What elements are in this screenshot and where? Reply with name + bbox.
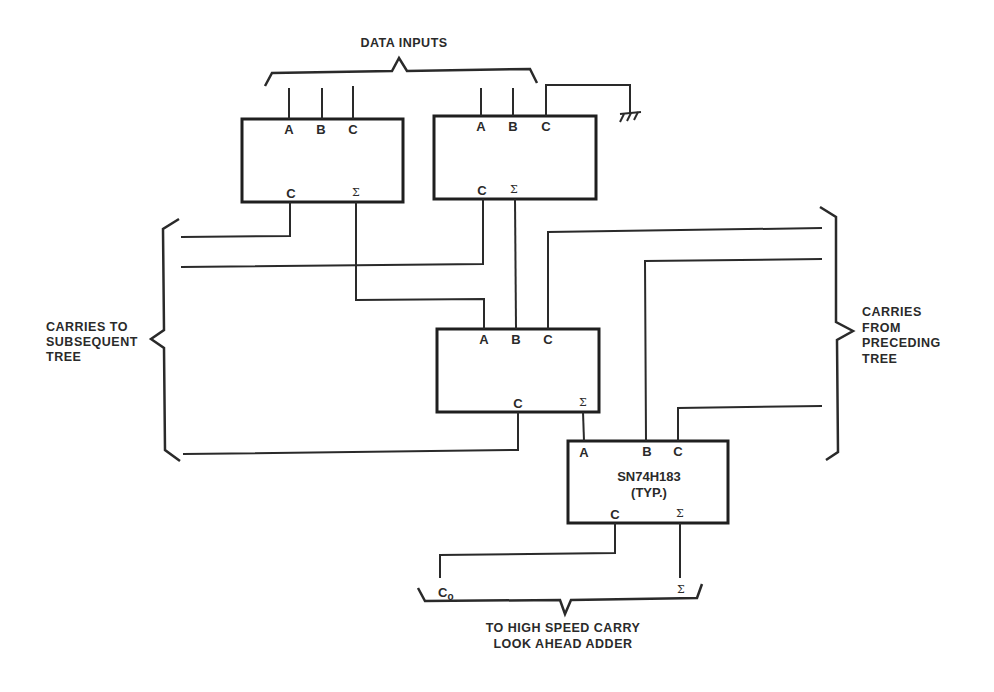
wire-carry-in-to-adder4-b xyxy=(645,259,822,441)
wire-adder2-carry-out xyxy=(181,199,483,267)
adder-3-pin-b: B xyxy=(511,332,520,347)
carries-to-brace xyxy=(151,219,180,461)
wire-adder3-sum-to-adder4-a xyxy=(583,412,584,441)
data-inputs-label: DATA INPUTS xyxy=(360,36,447,50)
adder-3-pin-a: A xyxy=(479,332,489,347)
adder-2-pin-a: A xyxy=(476,119,486,134)
carries-to-label-line1: CARRIES TO xyxy=(46,320,128,334)
adder-4-out-c: C xyxy=(610,507,620,522)
adder-3-out-sum: Σ xyxy=(579,396,587,409)
adder-3-pin-c: C xyxy=(543,332,553,347)
output-carry-label: Co xyxy=(438,585,454,602)
adder-3-out-c: C xyxy=(513,396,523,411)
adder-4-pin-a: A xyxy=(579,445,589,460)
carry-save-adder-tree-diagram: DATA INPUTS A B C C Σ A B C C Σ A B C C xyxy=(0,0,994,692)
adder-1-pin-c: C xyxy=(348,122,358,137)
wire-adder3-carry-out xyxy=(183,412,518,454)
adder-1: A B C C Σ xyxy=(242,86,403,202)
adder-2-out-c: C xyxy=(477,183,487,198)
output-brace xyxy=(418,584,702,614)
carries-from-label-line4: TREE xyxy=(862,352,897,366)
wire-adder2-sum-to-adder3-b xyxy=(515,199,516,329)
adder-1-out-c: C xyxy=(286,186,296,201)
adder-1-pin-b: B xyxy=(316,122,325,137)
adder-1-pin-a: A xyxy=(284,122,294,137)
carries-from-label-line3: PRECEDING xyxy=(862,336,941,350)
adder-3: A B C C Σ xyxy=(437,329,599,412)
adder-4-out-sum: Σ xyxy=(676,507,684,520)
adder-2-pin-b: B xyxy=(508,119,517,134)
output-caption-line2: LOOK AHEAD ADDER xyxy=(493,637,632,651)
output-sum-label: Σ xyxy=(677,583,685,596)
adder-4-pin-b: B xyxy=(642,444,651,459)
carries-to-label-line3: TREE xyxy=(46,350,81,364)
ground-icon xyxy=(620,112,641,122)
adder-1-out-sum: Σ xyxy=(352,186,360,199)
part-note: (TYP.) xyxy=(631,485,667,500)
adder-2-out-sum: Σ xyxy=(510,183,518,196)
adder-2: A B C C Σ xyxy=(434,88,596,199)
output-caption-line1: TO HIGH SPEED CARRY xyxy=(486,621,641,635)
wire-adder1-carry-out xyxy=(181,202,290,237)
carries-to-label-line2: SUBSEQUENT xyxy=(46,335,138,349)
adder-2-pin-c: C xyxy=(541,119,551,134)
part-number: SN74H183 xyxy=(617,469,681,484)
wire-carry-in-to-adder3-c xyxy=(548,228,822,329)
carries-from-brace xyxy=(820,207,853,460)
adder-4-pin-c: C xyxy=(673,444,683,459)
ground-wire xyxy=(546,85,630,116)
wire-adder4-carry-out xyxy=(440,523,615,578)
wire-carry-in-to-adder4-c xyxy=(678,406,822,441)
adder-4-sn74h183: A B C SN74H183 (TYP.) C Σ xyxy=(568,441,728,523)
carries-from-label-line1: CARRIES xyxy=(862,305,922,319)
carries-from-label-line2: FROM xyxy=(862,321,901,335)
data-inputs-brace xyxy=(265,58,537,86)
